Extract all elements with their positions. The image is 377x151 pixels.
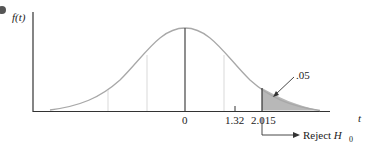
area-arrow: [276, 77, 294, 94]
t-distribution-chart: f(t) t 0 1.32 2.015 .05 Reject H 0: [0, 0, 377, 151]
y-axis-label: f(t): [12, 11, 26, 24]
tick-label-0: 0: [182, 114, 188, 126]
reject-subscript: 0: [349, 135, 353, 144]
tick-label-1-32: 1.32: [225, 114, 244, 126]
x-axis-label: t: [358, 112, 362, 124]
area-label: .05: [296, 69, 310, 81]
tick-label-2-015: 2.015: [251, 114, 276, 126]
rejection-region: [262, 88, 320, 111]
reject-arrow-head: [293, 132, 300, 138]
bullet-marker: [0, 6, 6, 14]
reject-label: Reject H: [303, 129, 343, 141]
